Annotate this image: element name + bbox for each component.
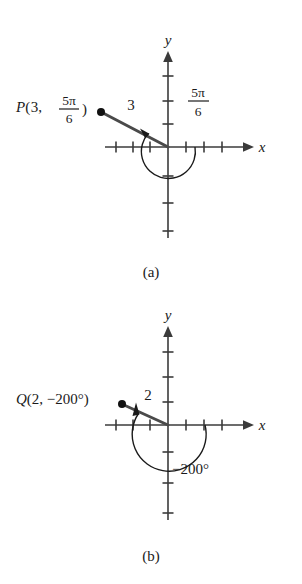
y-axis-arrowhead-a [163,51,173,62]
angle-label-a-numerator: 5π [191,85,205,100]
point-label-p-angle-numerator: 5π [62,93,76,108]
plotted-point-q [118,400,126,408]
caption-panel-b: (b) [0,548,302,565]
plotted-point-p [97,108,105,116]
figure-root: x y 3 P(3, 5π [0,0,302,584]
polar-diagram-panel-b: x y 2 Q(2, −200°) −200° [0,292,302,584]
point-label-p-radius: 3, [31,99,42,115]
y-axis-group-b: y [163,307,174,520]
y-axis-arrowhead-b [163,326,173,337]
point-label-p-prefix: P [15,99,25,115]
point-label-q-body: (2, −200°) [27,391,89,408]
point-label-p-open: ( [25,99,30,116]
radius-label-a: 3 [127,97,135,113]
polar-diagram-panel-a: x y 3 P(3, 5π [0,0,302,292]
terminal-ray-a [103,113,168,147]
x-axis-arrowhead-b [243,420,254,430]
angle-label-a-denominator: 6 [195,104,202,119]
x-axis-label-a: x [258,139,266,155]
x-axis-arrowhead-a [243,142,254,152]
x-axis-group-a: x [105,139,266,155]
angle-label-a: 5π 6 [188,85,209,119]
radius-label-b: 2 [144,387,152,403]
x-axis-group-b: x [105,417,266,433]
terminal-ray-b [124,405,168,425]
y-axis-group-a: y [163,32,174,238]
x-axis-label-b: x [258,417,266,433]
caption-panel-a: (a) [0,264,302,281]
angle-label-b: −200° [172,461,209,477]
point-label-q-prefix: Q [16,391,27,407]
y-axis-label-b: y [163,307,172,323]
point-label-p: P(3, 5π 6 ) [15,93,87,126]
point-label-p-angle-denominator: 6 [66,111,73,126]
svg-text:P(3,: P(3, [15,99,42,116]
point-label-p-close: ) [82,101,87,118]
point-label-q: Q(2, −200°) [16,391,89,408]
y-axis-label-a: y [163,32,172,48]
